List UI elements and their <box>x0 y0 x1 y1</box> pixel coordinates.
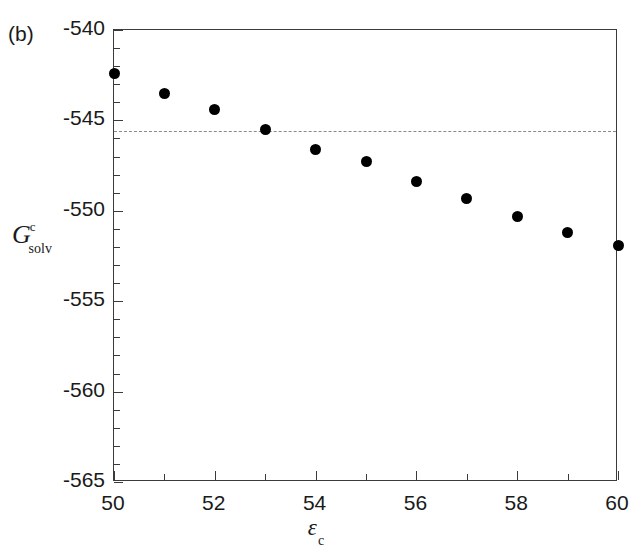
y-tick-minor <box>114 464 120 465</box>
y-tick-minor <box>114 247 120 248</box>
x-tick-label: 54 <box>292 491 338 515</box>
y-tick-minor <box>114 66 120 67</box>
x-tick-major <box>618 471 619 480</box>
y-tick-minor <box>114 175 120 176</box>
y-tick-label: -560 <box>39 378 105 402</box>
y-tick-label: -565 <box>39 468 105 492</box>
y-tick-minor <box>114 283 120 284</box>
reference-dashed-line <box>114 131 616 132</box>
y-tick-label: -545 <box>39 106 105 130</box>
x-tick-minor <box>366 474 367 480</box>
x-tick-major <box>517 471 518 480</box>
y-tick-major <box>114 30 123 31</box>
x-tick-label: 56 <box>392 491 438 515</box>
data-point <box>512 211 523 222</box>
data-point <box>159 88 170 99</box>
data-point <box>613 240 624 251</box>
x-axis-title-subscript: c <box>318 533 324 548</box>
x-tick-major <box>316 471 317 480</box>
y-tick-major <box>114 211 123 212</box>
panel-label: (b) <box>8 22 34 46</box>
y-tick-label: -555 <box>39 287 105 311</box>
y-tick-minor <box>114 265 120 266</box>
plot-area <box>113 29 617 481</box>
x-tick-major <box>215 471 216 480</box>
x-tick-minor <box>467 474 468 480</box>
y-tick-minor <box>114 355 120 356</box>
y-tick-minor <box>114 374 120 375</box>
data-point <box>260 124 271 135</box>
y-axis-title-subscript: solv <box>29 241 52 256</box>
y-tick-minor <box>114 48 120 49</box>
y-axis-title-superscript: c <box>30 219 36 234</box>
y-tick-minor <box>114 138 120 139</box>
y-axis-title-base: G <box>12 220 31 249</box>
x-tick-label: 60 <box>594 491 631 515</box>
data-point <box>361 156 372 167</box>
y-tick-minor <box>114 446 120 447</box>
y-tick-major <box>114 120 123 121</box>
y-tick-minor <box>114 157 120 158</box>
y-tick-minor <box>114 84 120 85</box>
y-tick-minor <box>114 337 120 338</box>
data-point <box>461 193 472 204</box>
x-tick-label: 58 <box>493 491 539 515</box>
y-tick-label: -550 <box>39 197 105 221</box>
y-tick-label: -540 <box>39 16 105 40</box>
x-axis-title-base: ε <box>308 515 317 540</box>
figure-panel-b: (b) Gcsolv εc -540-545-550-555-560-565 5… <box>0 0 631 551</box>
x-tick-minor <box>265 474 266 480</box>
y-tick-minor <box>114 319 120 320</box>
x-tick-label: 50 <box>90 491 136 515</box>
y-tick-minor <box>114 193 120 194</box>
y-tick-minor <box>114 102 120 103</box>
x-tick-major <box>416 471 417 480</box>
y-tick-major <box>114 301 123 302</box>
y-axis-title: Gcsolv <box>12 222 60 252</box>
data-point <box>109 68 120 79</box>
x-axis-title: εc <box>0 516 631 544</box>
x-tick-major <box>114 471 115 480</box>
x-tick-label: 52 <box>191 491 237 515</box>
x-tick-minor <box>568 474 569 480</box>
y-tick-major <box>114 482 123 483</box>
data-point <box>411 176 422 187</box>
data-point <box>562 227 573 238</box>
y-tick-minor <box>114 428 120 429</box>
data-point <box>310 144 321 155</box>
data-point <box>209 104 220 115</box>
y-tick-minor <box>114 229 120 230</box>
y-tick-minor <box>114 410 120 411</box>
x-tick-minor <box>164 474 165 480</box>
y-tick-major <box>114 392 123 393</box>
